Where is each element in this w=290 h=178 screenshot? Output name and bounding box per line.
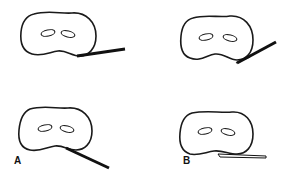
oval-outline: [21, 12, 96, 56]
panel-top-right: [181, 16, 276, 63]
label-a: A: [14, 155, 21, 166]
panel-bottom-right: [180, 112, 266, 158]
panel-top-left: [21, 12, 125, 56]
instrument: [66, 148, 109, 168]
diagram-canvas: [0, 0, 290, 178]
oval-outline: [181, 16, 253, 60]
oval-outline: [180, 112, 253, 155]
oval-outline: [19, 107, 92, 150]
panel-bottom-left: [19, 107, 109, 168]
label-b: B: [183, 155, 190, 166]
instrument: [218, 154, 266, 158]
